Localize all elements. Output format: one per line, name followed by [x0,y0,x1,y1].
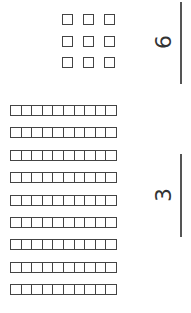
rod-cell [106,240,116,249]
rod-cell [96,196,107,205]
rod-cell [53,263,64,272]
rod-cell [32,128,43,137]
rod-cell [32,240,43,249]
rod-cell [22,128,33,137]
rod-cell [106,106,116,115]
rod-cell [85,106,96,115]
rod-cell [11,285,22,294]
rod-cell [85,240,96,249]
rod-cell [75,240,86,249]
rod-cell [32,106,43,115]
rod-cell [75,106,86,115]
rod-cell [106,218,116,227]
rod-cell [75,285,86,294]
rod-cell [85,173,96,182]
unit-square [83,57,94,68]
rod-cell [43,151,54,160]
ten-rod [10,195,117,206]
rod-cell [106,151,116,160]
rod-cell [85,196,96,205]
ten-rod [10,150,117,161]
rod-cell [64,263,75,272]
rod-cell [64,218,75,227]
ones-digit: 6 [151,32,177,52]
rod-cell [96,218,107,227]
unit-square [104,57,115,68]
rod-cell [53,151,64,160]
rod-cell [96,151,107,160]
rod-cell [96,263,107,272]
rod-cell [43,173,54,182]
rod-cell [53,218,64,227]
rod-cell [53,196,64,205]
ten-rod [10,239,117,250]
rod-cell [43,263,54,272]
rod-cell [22,196,33,205]
ones-answer-line [180,2,182,84]
rod-cell [22,151,33,160]
rod-cell [11,263,22,272]
rod-cell [64,240,75,249]
rod-cell [85,285,96,294]
rod-cell [75,196,86,205]
rod-cell [96,173,107,182]
rod-cell [106,263,116,272]
unit-square [104,14,115,25]
rod-cell [106,128,116,137]
rod-cell [11,173,22,182]
rod-cell [96,285,107,294]
rod-cell [32,218,43,227]
rod-cell [64,285,75,294]
ten-rod [10,127,117,138]
rod-cell [53,128,64,137]
rod-cell [11,196,22,205]
rod-cell [32,173,43,182]
rod-cell [43,240,54,249]
rod-cell [75,173,86,182]
rod-cell [32,263,43,272]
rod-cell [53,106,64,115]
rod-cell [22,173,33,182]
rod-cell [64,106,75,115]
rod-cell [22,285,33,294]
rod-cell [43,106,54,115]
unit-square [62,36,73,47]
rod-cell [75,263,86,272]
rod-cell [96,240,107,249]
rod-cell [11,218,22,227]
rod-cell [64,128,75,137]
unit-square [62,14,73,25]
ten-rod [10,262,117,273]
rod-cell [64,151,75,160]
tens-digit: 3 [151,185,177,205]
ten-rod [10,172,117,183]
rod-cell [85,128,96,137]
ten-rod [10,105,117,116]
rod-cell [85,263,96,272]
ten-rod [10,217,117,228]
rod-cell [85,151,96,160]
rod-cell [22,240,33,249]
rod-cell [106,173,116,182]
rod-cell [22,218,33,227]
rod-cell [75,151,86,160]
rod-cell [32,196,43,205]
rod-cell [32,151,43,160]
rod-cell [43,285,54,294]
rod-cell [11,240,22,249]
rod-cell [43,128,54,137]
rod-cell [11,151,22,160]
tens-answer-line [180,154,182,237]
unit-square [83,36,94,47]
rod-cell [64,173,75,182]
rod-cell [53,173,64,182]
rod-cell [43,196,54,205]
rod-cell [75,128,86,137]
unit-square [62,57,73,68]
rod-cell [106,196,116,205]
unit-square [83,14,94,25]
ten-rod [10,284,117,295]
rod-cell [96,128,107,137]
rod-cell [22,263,33,272]
rod-cell [85,218,96,227]
